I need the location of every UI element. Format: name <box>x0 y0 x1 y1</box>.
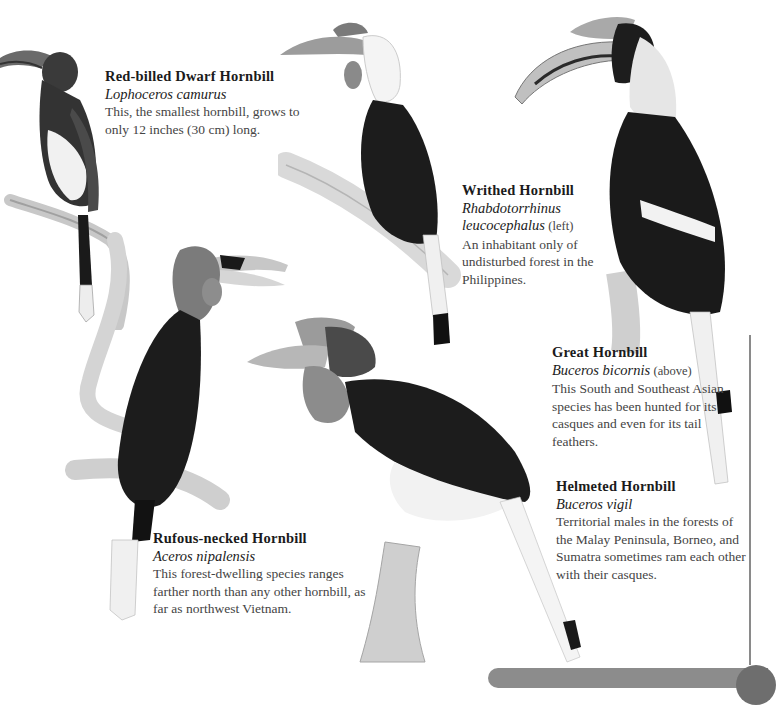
scientific-name-line2: leucocephalus <box>462 217 545 233</box>
scientific-name: Aceros nipalensis <box>153 548 255 564</box>
caption-rufous-necked-hornbill: Rufous-necked Hornbill Aceros nipalensis… <box>153 530 368 618</box>
description: This South and Southeast Asian species h… <box>552 380 737 450</box>
footer-page-marker <box>736 665 776 705</box>
common-name: Rufous-necked Hornbill <box>153 530 368 548</box>
writhed-hornbill-illustration <box>278 15 468 350</box>
helmeted-hornbill-illustration <box>245 312 585 672</box>
scientific-name: Buceros bicornis <box>552 362 650 378</box>
scientific-name: Buceros vigil <box>556 496 632 512</box>
description: This forest-dwelling species ranges fart… <box>153 565 368 618</box>
caption-writhed-hornbill: Writhed Hornbill Rhabdotorrhinus leucoce… <box>462 182 612 288</box>
footer-bar <box>488 668 768 688</box>
scientific-name: Lophoceros camurus <box>105 86 227 102</box>
vertical-rule <box>749 335 751 665</box>
common-name: Great Hornbill <box>552 344 737 362</box>
caption-helmeted-hornbill: Helmeted Hornbill Buceros vigil Territor… <box>556 478 746 583</box>
scientific-name-line1: Rhabdotorrhinus <box>462 200 612 218</box>
description: This, the smallest hornbill, grows to on… <box>105 103 305 138</box>
common-name: Red-billed Dwarf Hornbill <box>105 68 305 86</box>
caption-great-hornbill: Great Hornbill Buceros bicornis (above) … <box>552 344 737 450</box>
position-note: (left) <box>548 219 573 233</box>
common-name: Writhed Hornbill <box>462 182 612 200</box>
caption-red-billed-dwarf-hornbill: Red-billed Dwarf Hornbill Lophoceros cam… <box>105 68 305 138</box>
description: Territorial males in the forests of the … <box>556 513 746 583</box>
common-name: Helmeted Hornbill <box>556 478 746 496</box>
description: An inhabitant only of undisturbed forest… <box>462 236 612 289</box>
position-note: (above) <box>654 364 692 378</box>
